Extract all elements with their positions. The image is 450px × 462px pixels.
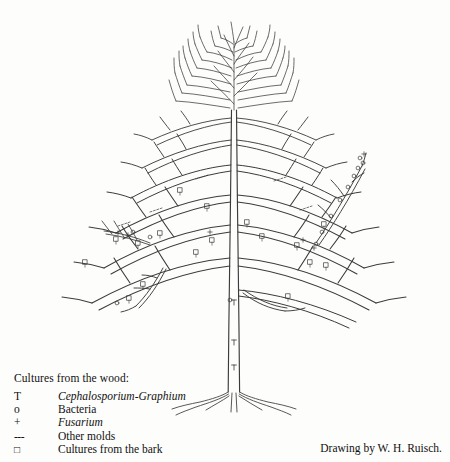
legend: Cultures from the wood: T Cephalosporium…: [14, 372, 254, 456]
trunk-markers: [232, 300, 237, 370]
legend-symbol-fusarium: +: [14, 416, 58, 429]
legend-row-fusarium: + Fusarium: [14, 416, 254, 429]
legend-label-cephalosporium-graphium: Cephalosporium-Graphium: [58, 390, 186, 403]
whorl-c: [107, 159, 361, 203]
legend-row-cephalosporium-graphium: T Cephalosporium-Graphium: [14, 390, 254, 403]
other-mold-dashes: [118, 175, 312, 226]
legend-label-cultures-from-bark: Cultures from the bark: [58, 443, 162, 456]
crown-fine-branches: [169, 22, 299, 110]
legend-symbol-other-molds: ---: [14, 430, 58, 443]
whorl-b: [121, 134, 347, 173]
legend-row-bacteria: o Bacteria: [14, 403, 254, 416]
legend-symbol-bacteria: o: [14, 403, 58, 416]
legend-symbol-cultures-from-bark: □: [14, 443, 58, 456]
tree-figure: Cultures from the wood: T Cephalosporium…: [0, 0, 450, 462]
legend-label-fusarium: Fusarium: [58, 416, 103, 429]
drawing-credit: Drawing by W. H. Ruisch.: [320, 442, 442, 455]
legend-title: Cultures from the wood:: [14, 372, 254, 385]
drooping-branch-left: [121, 268, 166, 312]
trunk: [228, 110, 239, 392]
whorl-a: [134, 111, 334, 145]
legend-label-other-molds: Other molds: [58, 430, 115, 443]
legend-label-bacteria: Bacteria: [58, 403, 96, 416]
legend-row-cultures-from-bark: □ Cultures from the bark: [14, 443, 254, 456]
legend-symbol-cephalosporium-graphium: T: [14, 390, 58, 403]
legend-row-other-molds: --- Other molds: [14, 430, 254, 443]
lowest-branch-right: [239, 290, 356, 328]
whorl-e: [74, 215, 394, 274]
